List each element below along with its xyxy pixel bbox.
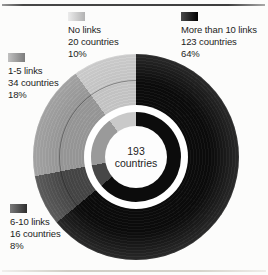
- legend-no-links: No links 20 countries 10%: [68, 12, 119, 60]
- 1-5-links-countries: 34 countries: [8, 77, 59, 89]
- 1-5-links-swatch: [8, 53, 25, 62]
- more-than-10-links-swatch: [181, 12, 198, 21]
- center-total-value: 193: [127, 145, 145, 158]
- 6-10-links-swatch: [10, 204, 27, 213]
- bottom-rule: [2, 270, 266, 272]
- figure-linked-countries-donut: No links 20 countries 10% More than 10 l…: [0, 0, 268, 275]
- more-than-10-links-percent: 64%: [181, 48, 257, 60]
- top-rule: [2, 4, 265, 6]
- more-than-10-links-label: More than 10 links: [181, 24, 257, 36]
- no-links-label: No links: [68, 24, 119, 36]
- more-than-10-links-countries: 123 countries: [181, 36, 257, 48]
- no-links-swatch: [68, 12, 85, 21]
- 1-5-links-label: 1-5 links: [8, 65, 59, 77]
- legend-more-than-10-links: More than 10 links 123 countries 64%: [181, 12, 257, 60]
- center-total-unit: countries: [115, 157, 158, 170]
- 6-10-links-countries: 16 countries: [10, 228, 61, 240]
- legend-1-5-links: 1-5 links 34 countries 18%: [8, 53, 59, 101]
- center-label: 193 countries: [105, 126, 167, 188]
- 6-10-links-percent: 8%: [10, 240, 61, 252]
- no-links-countries: 20 countries: [68, 36, 119, 48]
